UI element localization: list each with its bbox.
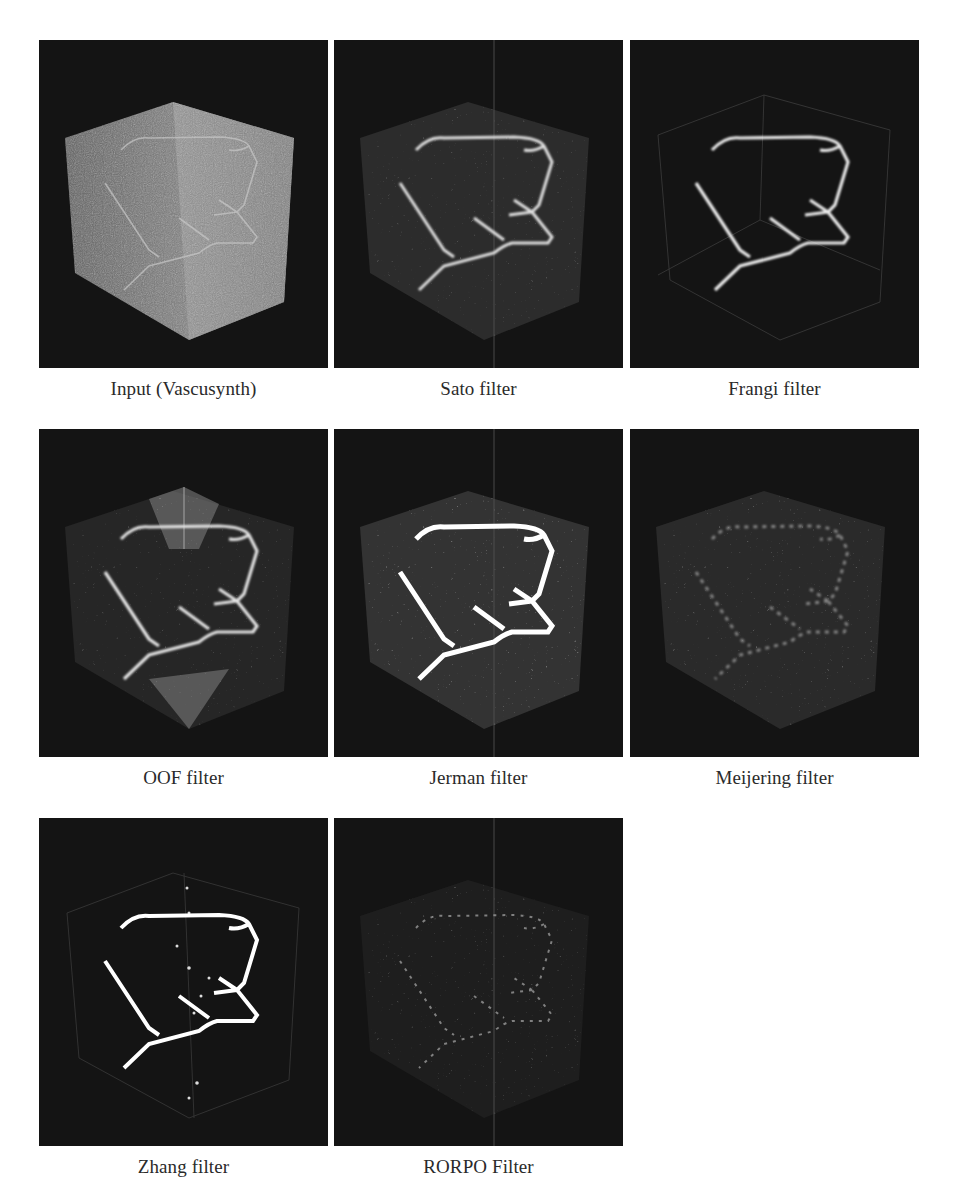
panel-jerman: Jerman filter xyxy=(334,429,623,757)
panel-image-input xyxy=(39,40,328,368)
panel-image-frangi xyxy=(630,40,919,368)
caption-meijering: Meijering filter xyxy=(630,767,919,789)
panel-image-zhang xyxy=(39,818,328,1146)
panel-rorpo: RORPO Filter xyxy=(334,818,623,1146)
caption-oof: OOF filter xyxy=(39,767,328,789)
panel-image-sato xyxy=(334,40,623,368)
caption-frangi: Frangi filter xyxy=(630,378,919,400)
panel-image-oof xyxy=(39,429,328,757)
panel-image-rorpo xyxy=(334,818,623,1146)
panel-image-meijering xyxy=(630,429,919,757)
panel-oof: OOF filter xyxy=(39,429,328,757)
panel-meijering: Meijering filter xyxy=(630,429,919,757)
panel-zhang: Zhang filter xyxy=(39,818,328,1146)
figure-grid: Input (Vascusynth) Sato filter Frangi fi… xyxy=(0,0,956,1199)
panel-input: Input (Vascusynth) xyxy=(39,40,328,368)
panel-sato: Sato filter xyxy=(334,40,623,368)
panel-image-jerman xyxy=(334,429,623,757)
caption-rorpo: RORPO Filter xyxy=(334,1156,623,1178)
caption-zhang: Zhang filter xyxy=(39,1156,328,1178)
caption-input: Input (Vascusynth) xyxy=(39,378,328,400)
panel-frangi: Frangi filter xyxy=(630,40,919,368)
caption-jerman: Jerman filter xyxy=(334,767,623,789)
caption-sato: Sato filter xyxy=(334,378,623,400)
